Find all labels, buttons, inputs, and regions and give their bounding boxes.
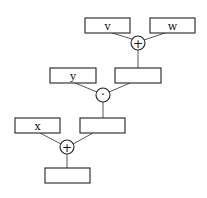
edge-prod-plus — [73, 133, 93, 144]
edge-w-plus — [144, 33, 165, 40]
edge-v-plus — [112, 33, 132, 39]
box-label: v — [103, 20, 111, 33]
dot-icon: · — [101, 88, 105, 102]
plus-icon: + — [62, 141, 72, 155]
edge-y-dot — [75, 83, 97, 92]
box-w: w — [150, 18, 195, 33]
edge-sum-dot — [109, 83, 130, 92]
box-label: x — [34, 120, 41, 133]
box-result — [45, 168, 90, 183]
plus-operator-top: + — [131, 36, 145, 51]
plus-operator-bottom: + — [60, 140, 74, 155]
diagram-canvas: v w y x + · + — [0, 0, 207, 198]
box-label: y — [69, 70, 77, 83]
edge-x-plus — [40, 133, 61, 144]
box-x: x — [15, 118, 60, 133]
box-label: w — [168, 20, 178, 33]
box-vw-sum — [115, 68, 161, 83]
box-y: y — [50, 68, 96, 83]
box-product — [80, 118, 125, 133]
plus-icon: + — [133, 37, 143, 51]
box-v: v — [85, 18, 130, 33]
dot-operator: · — [96, 88, 110, 102]
computation-graph: v w y x + · + — [0, 0, 207, 198]
